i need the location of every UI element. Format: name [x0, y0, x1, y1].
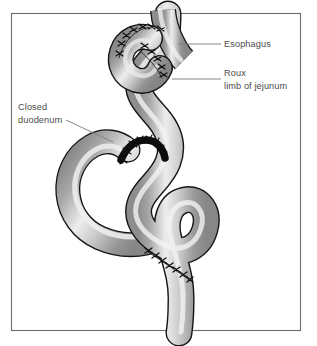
- label-esophagus: Esophagus: [224, 39, 271, 49]
- label-roux-line1: Roux: [224, 68, 246, 78]
- label-roux-line2: limb of jejunum: [224, 81, 288, 91]
- anatomy-diagram: Esophagus Roux limb of jejunum Closed du…: [0, 0, 317, 346]
- figure-container: Esophagus Roux limb of jejunum Closed du…: [0, 0, 317, 346]
- label-closed-duodenum-line1: Closed: [18, 102, 47, 112]
- label-closed-duodenum-line2: duodenum: [18, 115, 62, 125]
